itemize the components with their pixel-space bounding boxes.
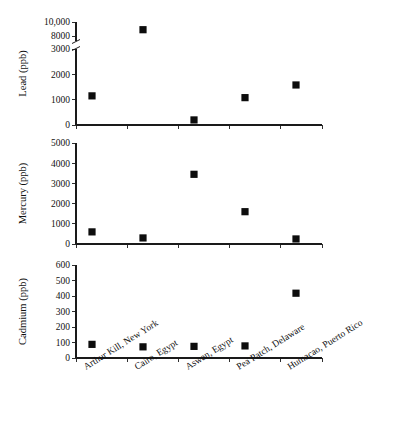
data-point-4 [292, 81, 299, 88]
y-axis-tick-label-lower-2: 2000 [51, 70, 70, 80]
data-marker [190, 116, 197, 123]
data-marker [241, 208, 248, 215]
data-marker [139, 343, 146, 350]
panel-top: 800010,0000100020003000Lead (ppb) [17, 17, 322, 130]
data-point-3 [241, 342, 248, 349]
y-axis-title: Lead (ppb) [17, 50, 29, 97]
y-axis-tick-label-4: 4000 [51, 159, 70, 169]
y-axis-title: Mercury (ppb) [17, 162, 29, 224]
data-marker [292, 290, 299, 297]
data-point-1 [139, 343, 146, 350]
y-axis-tick-label-5: 5000 [51, 138, 70, 148]
y-axis-tick-label-3: 3000 [51, 179, 70, 189]
y-axis-tick-label-0: 0 [65, 239, 70, 249]
data-point-4 [292, 290, 299, 297]
data-marker [139, 26, 146, 33]
y-axis-tick-label-lower-1: 1000 [51, 95, 70, 105]
data-point-1 [139, 234, 146, 241]
x-axis-category-labels: Arthur Kill, New YorkCairo, EgyptAswan, … [82, 317, 365, 371]
data-point-3 [241, 208, 248, 215]
x-axis-category-label-2: Aswan, Egypt [184, 335, 235, 372]
y-axis-tick-label-2: 2000 [51, 199, 70, 209]
y-axis-tick-label-upper-0: 8000 [51, 31, 70, 41]
x-axis-category-label-1: Cairo, Egypt [133, 337, 180, 371]
figure-canvas: 800010,0000100020003000Lead (ppb)0100020… [0, 0, 393, 444]
data-point-0 [88, 341, 95, 348]
data-point-3 [241, 94, 248, 101]
y-axis-tick-label-lower-0: 0 [65, 120, 70, 130]
y-axis-tick-label-6: 600 [56, 260, 71, 270]
data-marker [88, 341, 95, 348]
data-marker [190, 343, 197, 350]
y-axis-tick-label-5: 500 [56, 276, 71, 286]
data-marker [241, 342, 248, 349]
y-axis-tick-label-4: 400 [56, 291, 71, 301]
multi-panel-scatter-figure: 800010,0000100020003000Lead (ppb)0100020… [0, 0, 393, 444]
y-axis-tick-label-1: 1000 [51, 219, 70, 229]
data-point-2 [190, 116, 197, 123]
data-point-2 [190, 343, 197, 350]
data-point-1 [139, 26, 146, 33]
y-axis-tick-label-lower-3: 3000 [51, 44, 70, 54]
data-marker [88, 228, 95, 235]
data-marker [88, 92, 95, 99]
data-point-4 [292, 235, 299, 242]
y-axis-tick-label-3: 300 [56, 307, 71, 317]
data-point-2 [190, 171, 197, 178]
panel-middle: 010002000300040005000Mercury (ppb) [17, 138, 322, 249]
data-marker [292, 81, 299, 88]
y-axis-tick-label-upper-1: 10,000 [44, 17, 70, 27]
data-marker [292, 235, 299, 242]
y-axis-title: Cadmium (ppb) [17, 278, 29, 345]
y-axis-tick-label-0: 0 [65, 353, 70, 363]
y-axis-tick-label-2: 200 [56, 322, 71, 332]
data-marker [190, 171, 197, 178]
data-point-0 [88, 228, 95, 235]
y-axis-tick-label-1: 100 [56, 338, 71, 348]
data-marker [139, 234, 146, 241]
data-marker [241, 94, 248, 101]
data-point-0 [88, 92, 95, 99]
